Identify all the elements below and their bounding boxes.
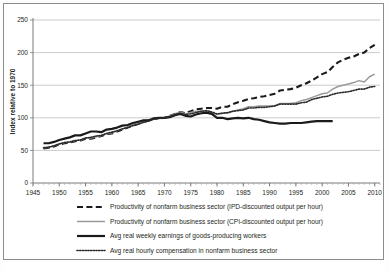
y-tick-label: 50 xyxy=(21,147,29,154)
x-tick-label: 1955 xyxy=(78,189,93,196)
legend-label-3: Avg real weekly earnings of goods-produc… xyxy=(110,232,267,240)
y-tick-label: 100 xyxy=(17,114,28,121)
x-tick-label: 2005 xyxy=(341,189,356,196)
x-tick-label: 1995 xyxy=(289,189,304,196)
legend-label-1: Productivity of nonfarm business sector … xyxy=(110,203,323,211)
x-tick-label: 1970 xyxy=(157,189,172,196)
x-tick-label: 1980 xyxy=(210,189,225,196)
y-tick-label: 150 xyxy=(17,82,28,89)
line-chart: 0501001502002501945195019551960196519701… xyxy=(4,4,383,259)
legend-label-2: Productivity of nonfarm business sector … xyxy=(110,218,323,226)
y-tick-label: 250 xyxy=(17,16,28,23)
x-tick-label: 2010 xyxy=(368,189,383,196)
chart-frame: 0501001502002501945195019551960196519701… xyxy=(3,3,384,260)
bottom-caption-strip xyxy=(3,262,384,271)
x-tick-label: 1960 xyxy=(105,189,120,196)
x-tick-label: 1945 xyxy=(26,189,41,196)
y-axis-title: Index relative to 1970 xyxy=(9,68,16,134)
figure-container: 0501001502002501945195019551960196519701… xyxy=(0,0,389,273)
y-tick-label: 0 xyxy=(24,179,28,186)
y-tick-label: 200 xyxy=(17,49,28,56)
x-tick-label: 1990 xyxy=(262,189,277,196)
x-tick-label: 1950 xyxy=(52,189,67,196)
x-tick-label: 1965 xyxy=(131,189,146,196)
x-tick-label: 1985 xyxy=(236,189,251,196)
legend-label-4: Avg real hourly compensation in nonfarm … xyxy=(110,247,278,255)
x-tick-label: 1975 xyxy=(183,189,198,196)
x-tick-label: 2000 xyxy=(315,189,330,196)
